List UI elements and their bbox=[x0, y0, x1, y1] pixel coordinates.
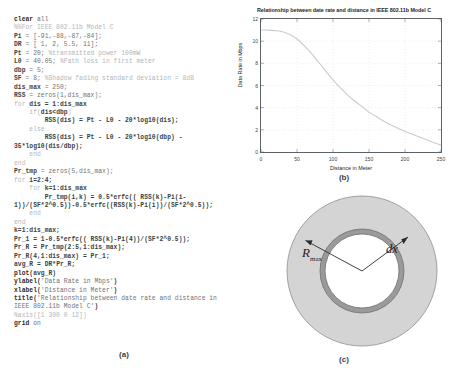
code-line: RSS(dis) = Pt - L0 - 20*log10(dis); bbox=[14, 117, 242, 125]
code-token: for bbox=[14, 177, 26, 184]
code-token: all bbox=[33, 16, 48, 23]
code-token: RSS bbox=[14, 92, 26, 99]
code-token: IEEE 802.11b Model C' bbox=[14, 303, 94, 310]
chart-y-tick-label: 6 bbox=[246, 83, 258, 89]
code-line: L0 = 40.05; %Path loss in first meter bbox=[14, 58, 242, 66]
code-token: = DR*Pr_R; bbox=[33, 261, 75, 268]
figure-label-b: (b) bbox=[324, 173, 364, 182]
code-token: Pr_1 bbox=[14, 236, 29, 243]
chart-y-tick-label: 0 bbox=[246, 149, 258, 155]
code-listing: clear all%%For IEEE 802.11b Model CPi = … bbox=[14, 16, 242, 329]
code-line: 35*log10(dis/dbp); bbox=[14, 143, 242, 151]
code-token: end bbox=[14, 151, 41, 158]
code-token: dis<dbp bbox=[41, 109, 68, 116]
code-line: title('Relationship between date rate an… bbox=[14, 295, 242, 303]
code-token: k=1:dis_max; bbox=[14, 227, 60, 234]
figure-label-a: (a) bbox=[104, 350, 144, 359]
label-r-max: Rmax bbox=[302, 245, 322, 263]
chart-x-tick-label: 200 bbox=[394, 156, 416, 162]
code-line: if(dis<dbp) bbox=[14, 109, 242, 117]
code-line: Pi = [-91,-88,-87,-84]; bbox=[14, 33, 242, 41]
chart-x-axis-label: Distance in Meter bbox=[260, 165, 442, 171]
code-token: grid bbox=[14, 320, 29, 327]
code-line: RSS(dis) = Pt - L0 - 20*log10(dbp) - bbox=[14, 134, 242, 142]
code-token: RSS(dis) = Pt - L0 - 20*log10(dis); bbox=[14, 117, 179, 124]
code-token: dis_max bbox=[14, 84, 41, 91]
code-token: 'Distance in Meter' bbox=[41, 287, 114, 294]
label-dx: dx bbox=[386, 242, 398, 257]
code-line: %axis([1 300 0 12]) bbox=[14, 312, 242, 320]
code-line: IEEE 802.11b Model C') bbox=[14, 303, 242, 311]
code-line: dbp = 5; bbox=[14, 67, 242, 75]
code-token: %Path loss in first meter bbox=[60, 58, 156, 65]
code-token: ylabel bbox=[14, 278, 37, 285]
code-line: else bbox=[14, 126, 242, 134]
code-token: dbp bbox=[14, 67, 26, 74]
code-line: Pr_tmp(i,k) = 0.5*erfc(( RSS(k)-Pi(i- bbox=[14, 194, 242, 202]
chart-x-tick-label: 100 bbox=[322, 156, 344, 162]
code-line: for i=2:4; bbox=[14, 177, 242, 185]
code-line: for dis = 1:dis_max bbox=[14, 101, 242, 109]
code-token: 'Relationship between date rate and dist… bbox=[37, 295, 217, 302]
code-token: RSS(dis) = Pt - L0 - 20*log10(dbp) - bbox=[14, 134, 182, 141]
chart-y-tick-label: 4 bbox=[246, 105, 258, 111]
code-token: title bbox=[14, 295, 33, 302]
code-line: end bbox=[14, 210, 242, 218]
code-line: SF = 8; %Shadow fading standard deviatio… bbox=[14, 75, 242, 83]
code-token: Pr_R(4,1:dis_max) = Pr_1; bbox=[14, 253, 110, 260]
label-r-max-letter: R bbox=[302, 245, 310, 260]
chart-x-tick-label: 50 bbox=[286, 156, 308, 162]
code-line: Pr_tmp = zeros(5,dis_max); bbox=[14, 168, 242, 176]
code-token: on bbox=[29, 320, 41, 327]
code-token: = [ 1, 2, 5.5, 11]; bbox=[22, 41, 99, 48]
code-line: 1))/(SF*2^0.5))-0.5*erfc((RSS(k)-Pi(i))/… bbox=[14, 202, 242, 210]
code-token: avg_R bbox=[14, 261, 33, 268]
chart-x-tick-label: 250 bbox=[430, 156, 452, 162]
code-token: = 8; bbox=[22, 75, 45, 82]
figure-label-c: (c) bbox=[324, 355, 364, 364]
code-token: %transmitted power 100mW bbox=[48, 50, 140, 57]
code-token: = 250; bbox=[41, 84, 68, 91]
code-line: grid on bbox=[14, 320, 242, 328]
code-token: 'Data Rate in Mbps' bbox=[41, 278, 114, 285]
code-token: %axis([1 300 0 12]) bbox=[14, 312, 87, 319]
chart-x-tick-label: 0 bbox=[250, 156, 272, 162]
code-line: Pt = 20; %transmitted power 100mW bbox=[14, 50, 242, 58]
chart-y-tick-label: 10 bbox=[246, 38, 258, 44]
code-token: else bbox=[14, 126, 45, 133]
code-token: Pr_R bbox=[14, 244, 29, 251]
chart-y-tick-label: 12 bbox=[246, 16, 258, 22]
code-token: (avg_R) bbox=[29, 270, 56, 277]
chart-y-tick-label: 8 bbox=[246, 60, 258, 66]
chart-y-ticks: 024681012 bbox=[244, 18, 258, 153]
code-token: = 5; bbox=[26, 67, 45, 74]
code-token: k=1:dis_max bbox=[45, 185, 87, 192]
code-token: dis = 1:dis_max bbox=[29, 101, 86, 108]
code-token: = [-91,-88,-87,-84]; bbox=[22, 33, 102, 40]
code-line: Pr_1 = 1-0.5*erfc(( RSS(k)-Pi(4))/(SF*2^… bbox=[14, 236, 242, 244]
code-line: end bbox=[14, 160, 242, 168]
code-token: = zeros(1,dis_max); bbox=[26, 92, 103, 99]
code-token: xlabel bbox=[14, 287, 37, 294]
code-token: 35*log10(dis/dbp); bbox=[14, 143, 83, 150]
code-token: = 1-0.5*erfc(( RSS(k)-Pi(4))/(SF*2^0.5))… bbox=[29, 236, 190, 243]
annulus-diagram: Rmax dx bbox=[282, 190, 442, 352]
code-token: clear bbox=[14, 16, 33, 23]
chart-y-tick-label: 2 bbox=[246, 127, 258, 133]
chart-x-tick-label: 150 bbox=[358, 156, 380, 162]
code-line: DR = [ 1, 2, 5.5, 11]; bbox=[14, 41, 242, 49]
code-line: Pr_R = Pr_tmp(2:5,1:dis_max); bbox=[14, 244, 242, 252]
code-token: end bbox=[14, 210, 41, 217]
code-token: = zeros(5,dis_max); bbox=[37, 168, 114, 175]
code-token: end bbox=[14, 160, 26, 167]
code-line: ylabel('Data Rate in Mbps') bbox=[14, 278, 242, 286]
code-line: end bbox=[14, 219, 242, 227]
code-token: ) bbox=[94, 303, 98, 310]
code-token: for bbox=[14, 185, 41, 192]
code-token: L0 bbox=[14, 58, 22, 65]
code-token: Pr_tmp bbox=[14, 168, 37, 175]
code-token: ) bbox=[114, 278, 118, 285]
code-token: = 40.05; bbox=[22, 58, 60, 65]
code-line: dis_max = 250; bbox=[14, 84, 242, 92]
code-line: %%For IEEE 802.11b Model C bbox=[14, 24, 242, 32]
